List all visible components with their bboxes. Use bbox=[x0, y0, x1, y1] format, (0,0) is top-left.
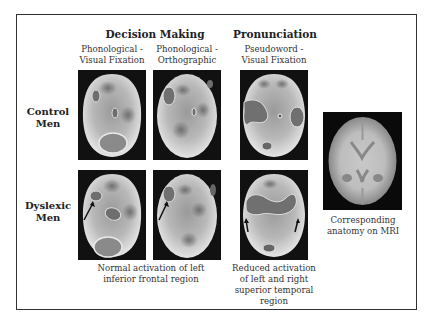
caption-line: Corresponding bbox=[316, 215, 410, 226]
row-label-line: Dyslexic bbox=[20, 200, 76, 212]
column-header-phonological-orthographic: Phonological - Orthographic bbox=[147, 44, 227, 65]
caption-decision-making: Normal activation of left inferior front… bbox=[76, 263, 226, 285]
column-header-phonological-visual: Phonological - Visual Fixation bbox=[72, 44, 152, 65]
row-label-control-men: Control Men bbox=[20, 106, 76, 130]
column-header-pseudoword-visual: Pseudoword - Visual Fixation bbox=[234, 44, 314, 65]
column-header-line: Visual Fixation bbox=[72, 55, 152, 66]
column-header-line: Phonological - bbox=[147, 44, 227, 55]
scan-dyslexic-pseudoword-visual bbox=[240, 170, 308, 260]
scan-control-phonological-orthographic bbox=[153, 70, 221, 160]
caption-line: Reduced activation bbox=[228, 263, 320, 274]
caption-line: inferior frontal region bbox=[76, 274, 226, 285]
group-header-pronunciation: Pronunciation bbox=[230, 28, 320, 40]
caption-line: anatomy on MRI bbox=[316, 226, 410, 237]
caption-line: of left and right bbox=[228, 274, 320, 285]
caption-pronunciation: Reduced activation of left and right sup… bbox=[228, 263, 320, 307]
mri-anatomy-image bbox=[323, 112, 402, 210]
scan-control-pseudoword-visual bbox=[240, 70, 308, 160]
column-header-line: Visual Fixation bbox=[234, 55, 314, 66]
column-header-line: Orthographic bbox=[147, 55, 227, 66]
row-label-dyslexic-men: Dyslexic Men bbox=[20, 200, 76, 224]
row-label-line: Men bbox=[20, 118, 76, 130]
column-header-line: Pseudoword - bbox=[234, 44, 314, 55]
column-header-line: Phonological - bbox=[72, 44, 152, 55]
caption-line: region bbox=[228, 296, 320, 307]
row-label-line: Men bbox=[20, 212, 76, 224]
caption-line: Normal activation of left bbox=[76, 263, 226, 274]
scan-dyslexic-phonological-visual bbox=[78, 170, 146, 260]
caption-line: superior temporal bbox=[228, 285, 320, 296]
group-header-decision-making: Decision Making bbox=[100, 28, 210, 40]
caption-mri: Corresponding anatomy on MRI bbox=[316, 215, 410, 237]
row-label-line: Control bbox=[20, 106, 76, 118]
scan-dyslexic-phonological-orthographic bbox=[153, 170, 221, 260]
scan-control-phonological-visual bbox=[78, 70, 146, 160]
